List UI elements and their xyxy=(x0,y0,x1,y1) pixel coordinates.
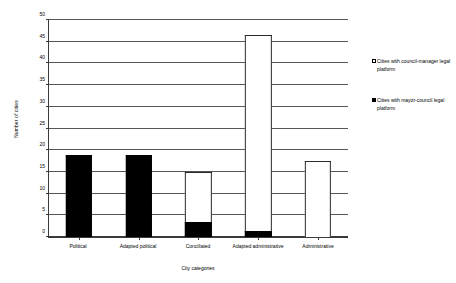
x-tick-mark xyxy=(79,237,80,240)
bar-slot xyxy=(228,20,288,237)
bar-segment-council-manager[interactable] xyxy=(245,35,271,230)
y-axis-title: Number of cities xyxy=(13,69,19,169)
stacked-bar[interactable] xyxy=(185,172,211,237)
x-axis-labels: PoliticalAdapted politicalConciliatedAda… xyxy=(48,243,348,250)
y-tick-label: 25 xyxy=(39,120,45,126)
bar-slot xyxy=(169,20,229,237)
x-tick-mark xyxy=(139,237,140,240)
x-axis-label: Adapted political xyxy=(108,243,168,250)
y-tick-label: 10 xyxy=(39,185,45,191)
x-axis-label: Conciliated xyxy=(168,243,228,250)
y-tick-label: 50 xyxy=(39,11,45,17)
legend-label: Cities with council-manager legal platfo… xyxy=(377,58,452,73)
y-tick-label: 45 xyxy=(39,33,45,39)
y-tick-label: 40 xyxy=(39,54,45,60)
plot-area: 05101520253035404550 xyxy=(48,20,348,238)
x-tick-mark xyxy=(198,237,199,240)
x-axis-title: City categories xyxy=(48,265,348,271)
legend-swatch-icon xyxy=(372,59,376,63)
bar-slot xyxy=(288,20,348,237)
stacked-bar[interactable] xyxy=(245,35,271,237)
stacked-bar[interactable] xyxy=(66,155,92,237)
bar-slot xyxy=(49,20,109,237)
bar-segment-mayor-council[interactable] xyxy=(185,222,211,237)
chart-legend: Cities with council-manager legal platfo… xyxy=(372,58,452,136)
legend-label: Cities with mayor-council legal platform xyxy=(377,97,452,112)
plot-inner: 05101520253035404550 xyxy=(49,20,348,237)
y-tick-label: 35 xyxy=(39,76,45,82)
x-axis-label: Administrative xyxy=(288,243,348,250)
stacked-bar[interactable] xyxy=(305,161,331,237)
y-tick-label: 30 xyxy=(39,98,45,104)
x-axis-label: Political xyxy=(48,243,108,250)
bars-layer xyxy=(49,20,348,237)
y-tick-label: 15 xyxy=(39,163,45,169)
y-tick-label: 0 xyxy=(42,228,45,234)
x-tick-mark xyxy=(258,237,259,240)
bar-segment-mayor-council[interactable] xyxy=(66,155,92,237)
x-tick-mark xyxy=(318,237,319,240)
legend-entry[interactable]: Cities with council-manager legal platfo… xyxy=(372,58,452,73)
bar-slot xyxy=(109,20,169,237)
y-tick-label: 5 xyxy=(42,206,45,212)
chart-figure: Number of cities 05101520253035404550 Po… xyxy=(0,0,456,283)
stacked-bar[interactable] xyxy=(126,155,152,237)
y-tick-label: 20 xyxy=(39,141,45,147)
bar-segment-council-manager[interactable] xyxy=(185,172,211,222)
bar-segment-mayor-council[interactable] xyxy=(126,155,152,237)
bar-segment-council-manager[interactable] xyxy=(305,161,331,237)
x-axis-label: Adapted administrative xyxy=(228,243,288,250)
legend-entry[interactable]: Cities with mayor-council legal platform xyxy=(372,97,452,112)
legend-swatch-icon xyxy=(372,98,376,102)
